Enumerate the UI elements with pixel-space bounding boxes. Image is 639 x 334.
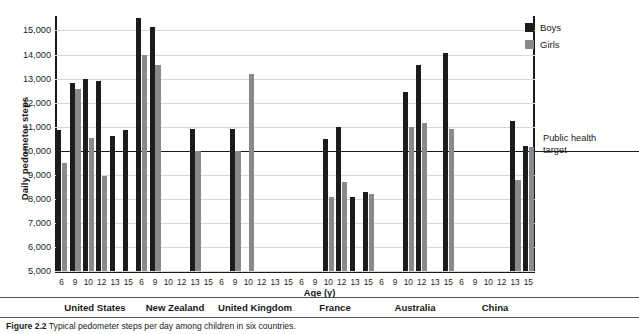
x-axis-tick-label: 9 <box>313 277 318 287</box>
x-axis-tick-label: 6 <box>459 277 464 287</box>
bar-boys <box>443 53 448 271</box>
x-axis-tick-label: 6 <box>379 277 384 287</box>
x-axis-tick-label: 10 <box>324 277 333 287</box>
bar-boys <box>83 79 88 272</box>
bar-girls <box>195 151 200 271</box>
y-axis-tick-label: 8,000 <box>28 194 51 204</box>
y-gridline <box>55 127 535 128</box>
bar-boys <box>136 18 141 271</box>
bar-boys <box>403 92 408 272</box>
x-axis-tick-label: 9 <box>233 277 238 287</box>
bar-boys <box>150 27 155 272</box>
bar-girls <box>515 180 520 272</box>
legend-item-girls: Girls <box>525 37 561 51</box>
bar-girls <box>369 194 374 271</box>
y-axis-tick-label: 11,000 <box>24 122 51 132</box>
bar-boys <box>363 192 368 272</box>
legend-item-boys: Boys <box>525 20 561 34</box>
bar-girls <box>529 147 534 271</box>
x-axis-tick-label: 10 <box>84 277 93 287</box>
x-axis-tick-label: 12 <box>417 277 426 287</box>
x-axis-tick-label: 15 <box>204 277 213 287</box>
x-axis-tick-label: 10 <box>164 277 173 287</box>
figure-caption: Figure 2.2 Typical pedometer steps per d… <box>6 321 296 331</box>
legend-label-girls: Girls <box>540 39 560 50</box>
y-axis-tick-label: 7,000 <box>28 218 51 228</box>
x-axis-tick-label: 15 <box>524 277 533 287</box>
bar-girls <box>75 89 80 271</box>
bar-boys <box>56 130 61 271</box>
bar-boys <box>510 121 515 272</box>
country-label: United Kingdom <box>218 302 292 313</box>
bar-girls <box>329 197 334 272</box>
x-axis-tick-label: 15 <box>284 277 293 287</box>
bar-boys <box>323 139 328 272</box>
y-gridline <box>55 55 535 56</box>
x-axis-tick-label: 10 <box>404 277 413 287</box>
figure-pedometer-steps: Daily pedometer steps 15,00014,00013,000… <box>0 0 639 334</box>
country-band-top-rule <box>0 297 639 298</box>
bar-girls <box>409 127 414 272</box>
bar-girls <box>142 55 147 272</box>
bar-girls <box>102 176 107 271</box>
legend-swatch-boys-icon <box>525 23 534 32</box>
x-axis-tick-label: 10 <box>484 277 493 287</box>
bar-girls <box>89 138 94 272</box>
x-axis-tick-label: 10 <box>244 277 253 287</box>
x-axis-tick-label: 13 <box>190 277 199 287</box>
bar-girls <box>155 65 160 271</box>
x-axis-tick-label: 12 <box>257 277 266 287</box>
x-axis-tick-label: 13 <box>430 277 439 287</box>
public-health-target-label: Public health target <box>543 133 613 156</box>
bar-boys <box>190 129 195 271</box>
x-axis-tick-label: 13 <box>350 277 359 287</box>
y-axis-tick-label: 9,000 <box>28 170 51 180</box>
y-axis-tick-label: 15,000 <box>23 25 51 35</box>
y-axis-tick-label: 5,000 <box>28 266 51 276</box>
x-axis-tick-label: 6 <box>299 277 304 287</box>
x-axis-tick-label: 9 <box>393 277 398 287</box>
x-axis-tick-label: 6 <box>219 277 224 287</box>
y-axis-tick-label: 6,000 <box>28 242 51 252</box>
y-gridline <box>55 271 535 272</box>
bar-boys <box>230 129 235 271</box>
x-axis-tick-label: 12 <box>337 277 346 287</box>
bar-boys <box>336 127 341 272</box>
figure-caption-text: Typical pedometer steps per day among ch… <box>49 321 296 331</box>
country-label: United States <box>64 302 125 313</box>
bar-girls <box>342 182 347 271</box>
x-axis-tick-label: 12 <box>497 277 506 287</box>
y-axis-tick-label: 13,000 <box>23 74 51 84</box>
x-axis-tick-label: 12 <box>97 277 106 287</box>
legend: Boys Girls <box>525 20 561 54</box>
bar-boys <box>523 146 528 271</box>
country-label: New Zealand <box>146 302 205 313</box>
y-axis-tick-label: 10,000 <box>23 146 51 156</box>
figure-caption-label: Figure 2.2 <box>6 321 47 331</box>
bar-girls <box>249 74 254 272</box>
y-gridline <box>55 79 535 80</box>
bar-boys <box>416 65 421 271</box>
bar-girls <box>235 151 240 271</box>
country-label: Australia <box>394 302 435 313</box>
plot-area: 15,00014,00013,00012,00011,00010,0009,00… <box>55 16 535 273</box>
y-gridline <box>55 30 535 31</box>
bar-girls <box>422 123 427 271</box>
bar-boys <box>70 83 75 271</box>
x-axis-tick-label: 9 <box>473 277 478 287</box>
x-axis-tick-label: 15 <box>364 277 373 287</box>
bar-boys <box>350 197 355 272</box>
country-band-bottom-rule <box>0 317 639 318</box>
bar-boys <box>96 81 101 271</box>
bar-boys <box>123 130 128 271</box>
legend-label-boys: Boys <box>540 22 561 33</box>
y-axis-tick-label: 14,000 <box>23 50 51 60</box>
legend-swatch-girls-icon <box>525 40 534 49</box>
bar-boys <box>110 136 115 271</box>
y-gridline <box>55 103 535 104</box>
bar-girls <box>449 129 454 271</box>
y-axis-tick-label: 12,000 <box>23 98 51 108</box>
x-axis-tick-label: 9 <box>73 277 78 287</box>
bar-girls <box>62 163 67 271</box>
x-axis-tick-label: 15 <box>124 277 133 287</box>
